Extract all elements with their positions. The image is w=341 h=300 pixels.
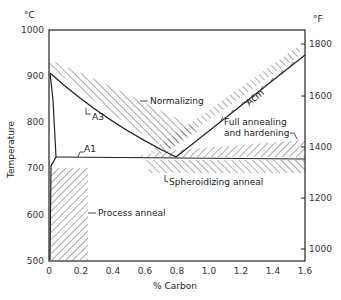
tick-1-4: 1.4 — [266, 266, 281, 276]
tick-1400f: 1400 — [309, 142, 332, 152]
tick-1000c: 1000 — [21, 25, 44, 35]
a3-label: A3 — [92, 112, 104, 122]
spheroidizing-region — [145, 160, 305, 173]
tick-1800f: 1800 — [309, 39, 332, 49]
fahrenheit-unit: °F — [313, 14, 323, 24]
normalizing-label: Normalizing — [150, 96, 204, 106]
tick-900c: 900 — [27, 71, 44, 81]
tick-1000f: 1000 — [309, 244, 332, 254]
carbon-axis-label: % Carbon — [153, 281, 197, 291]
process-anneal-label: Process anneal — [98, 208, 165, 218]
tick-0-8: 0.8 — [170, 266, 185, 276]
tick-0: 0 — [46, 266, 52, 276]
tick-1200f: 1200 — [309, 193, 332, 203]
spheroidizing-label: Spheroidizing anneal — [169, 177, 263, 187]
a1-line — [56, 157, 305, 159]
heat-treatment-diagram: °C 1000 900 800 700 600 500 Temperature … — [0, 0, 341, 300]
process-anneal-region — [51, 168, 88, 260]
temperature-axis-label: Temperature — [6, 121, 16, 179]
full-annealing-label-2: and hardening — [224, 128, 289, 138]
tick-1600f: 1600 — [309, 91, 332, 101]
tick-1-0: 1.0 — [202, 266, 217, 276]
tick-1-6: 1.6 — [298, 266, 313, 276]
x-axis: 0 0.2 0.4 0.6 0.8 1.0 1.2 1.4 1.6 % Carb… — [46, 266, 312, 291]
tick-0-6: 0.6 — [138, 266, 153, 276]
celsius-unit: °C — [24, 10, 35, 20]
right-axis: °F 1800 1600 1400 1200 1000 — [301, 14, 332, 254]
tick-500c: 500 — [27, 256, 44, 266]
full-annealing-label-1: Full annealing — [224, 117, 287, 127]
left-axis: °C 1000 900 800 700 600 500 Temperature — [6, 10, 44, 266]
tick-800c: 800 — [27, 117, 44, 127]
tick-0-2: 0.2 — [74, 266, 88, 276]
tick-700c: 700 — [27, 163, 44, 173]
a1-label: A1 — [84, 144, 96, 154]
tick-1-2: 1.2 — [234, 266, 248, 276]
tick-600c: 600 — [27, 210, 44, 220]
tick-0-4: 0.4 — [106, 266, 121, 276]
